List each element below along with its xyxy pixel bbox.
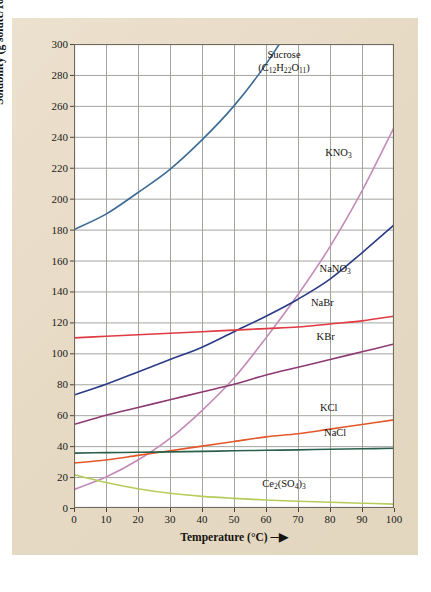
x-axis-title: Temperature (°C) ─▶	[74, 530, 394, 544]
plot-background	[74, 44, 394, 508]
plot-svg	[74, 44, 394, 508]
plot-area: 0204060801001201401601802002202402602803…	[74, 44, 394, 508]
solubility-chart-figure: Solubility (g solute/100 g H2O) ─▶ Tempe…	[0, 0, 431, 592]
y-axis-title: Solubility (g solute/100 g H2O) ─▶	[0, 0, 6, 150]
